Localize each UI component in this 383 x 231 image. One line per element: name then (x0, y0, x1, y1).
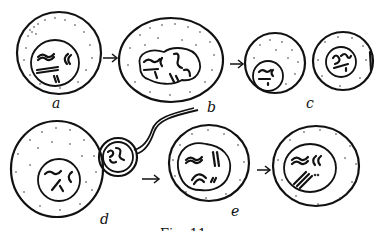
stage-c-cell-left (245, 33, 305, 93)
arrow-b-to-c (230, 60, 243, 68)
arrow-a-to-b (103, 54, 117, 62)
stage-e-nucleus (178, 143, 230, 190)
label-c: c (306, 95, 314, 111)
stage-c-left-nucleus (253, 61, 283, 91)
cell-stage-diagram: a b (0, 0, 383, 231)
stage-d-attached-cell (99, 108, 198, 176)
stage-e-next-cell (273, 126, 359, 206)
arrow-e-to-next (257, 166, 270, 174)
figure-caption: Fig. 11 (160, 226, 206, 231)
stage-b-nucleus (139, 48, 200, 84)
arrow-d-to-e (142, 175, 159, 183)
stage-a-cell (17, 12, 101, 94)
label-d: d (100, 211, 109, 227)
stage-e-cell (169, 125, 249, 201)
flagellum-tail (134, 108, 194, 150)
label-e: e (231, 203, 239, 219)
label-b: b (207, 99, 216, 115)
stage-d-cell (11, 121, 103, 217)
stage-c-cell-right (313, 32, 373, 90)
stage-b-cell (119, 18, 223, 102)
stage-e-next-nucleus (284, 144, 336, 192)
label-a: a (52, 95, 60, 111)
stage-c-right-nucleus (326, 47, 356, 77)
